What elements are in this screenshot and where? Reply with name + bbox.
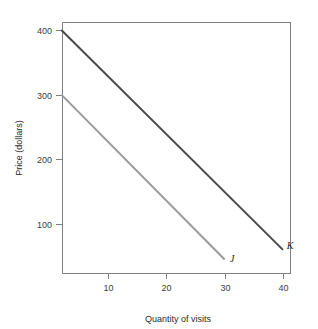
x-axis-title: Quantity of visits (145, 314, 212, 324)
chart-figure: 100200300400 10203040 KJ Quantity of vis… (0, 0, 318, 329)
x-tick-label: 10 (103, 283, 113, 293)
x-tick-label: 40 (278, 283, 288, 293)
x-tick-label: 20 (161, 283, 171, 293)
series-label-J: J (230, 253, 235, 264)
price-quantity-line-chart: 100200300400 10203040 KJ Quantity of vis… (0, 0, 318, 329)
series-label-K: K (286, 240, 295, 251)
y-axis-title: Price (dollars) (14, 120, 24, 176)
x-tick-label: 30 (220, 283, 230, 293)
y-tick-label: 300 (37, 91, 52, 101)
y-tick-label: 200 (37, 155, 52, 165)
y-tick-label: 400 (37, 26, 52, 36)
y-tick-label: 100 (37, 220, 52, 230)
